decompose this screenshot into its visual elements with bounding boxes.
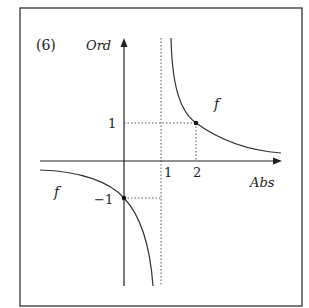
guide-lines xyxy=(124,38,196,286)
x-axis-label: Abs xyxy=(249,175,275,190)
x-axis-arrow-icon xyxy=(273,158,282,165)
y-tick-minus1: −1 xyxy=(94,192,113,207)
x-tick-2: 2 xyxy=(193,165,201,180)
curve-right-branch xyxy=(171,38,281,153)
y-axis-label: Ord xyxy=(86,38,111,53)
axes xyxy=(40,44,276,286)
point-2-1 xyxy=(194,121,199,126)
x-tick-1: 1 xyxy=(164,165,172,180)
y-axis-arrow-icon xyxy=(121,38,128,47)
function-graph: (6) Ord Abs 1 −1 1 2 f f xyxy=(0,0,309,308)
y-tick-1: 1 xyxy=(108,116,116,131)
curve-label-right: f xyxy=(213,96,222,112)
curve-label-left: f xyxy=(53,184,62,200)
panel-label: (6) xyxy=(36,37,56,53)
point-0-m1 xyxy=(122,196,127,201)
